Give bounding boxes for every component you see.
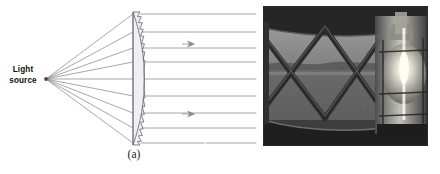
- incident-ray: [46, 79, 133, 128]
- incident-ray: [46, 14, 133, 79]
- incident-ray: [46, 79, 133, 96]
- lighthouse-lens-photo-svg: [263, 6, 428, 146]
- figure-container: Light source (a): [0, 0, 440, 174]
- incident-ray: [46, 62, 133, 79]
- incident-ray: [46, 79, 133, 113]
- photo-content: [263, 6, 428, 146]
- water-glare-band: [267, 72, 389, 75]
- incident-ray: [46, 48, 133, 79]
- panel-b-photograph: (b): [263, 6, 428, 146]
- incident-ray: [46, 79, 133, 143]
- incident-ray-group: [46, 14, 133, 143]
- light-source-label-line2: source: [9, 76, 36, 85]
- light-source-label-line1: Light: [13, 65, 34, 74]
- incident-ray: [46, 32, 133, 79]
- lamp-vertical-flare: [402, 28, 405, 120]
- lamp-pedestal: [377, 124, 428, 138]
- outgoing-ray-group: [141, 14, 256, 143]
- panel-a-caption: (a): [112, 148, 156, 160]
- panel-a-ray-diagram: Light source (a): [0, 0, 258, 174]
- light-source-point: [44, 77, 48, 81]
- light-source-label: Light source: [2, 65, 44, 86]
